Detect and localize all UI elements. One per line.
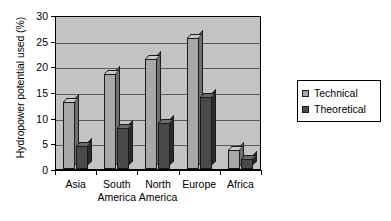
- y-axis-tick-labels: 051015202530: [22, 12, 48, 170]
- x-axis-tick-labels: AsiaSouthAmericaNorthAmericaEuropeAfrica: [55, 178, 262, 214]
- y-axis-tick-label: 25: [22, 37, 48, 47]
- plot-area: [55, 16, 261, 170]
- bar-group: [56, 17, 97, 169]
- bar-face: [117, 128, 129, 169]
- bar: [241, 159, 253, 169]
- chart-legend: TechnicalTheoretical: [297, 80, 381, 122]
- bar-face: [200, 97, 212, 169]
- bar: [200, 97, 212, 169]
- bar-group: [221, 17, 262, 169]
- y-axis-tick-label: 20: [22, 62, 48, 72]
- x-axis-tick-mark: [96, 170, 97, 175]
- legend-item: Theoretical: [302, 101, 377, 117]
- legend-item: Technical: [302, 85, 377, 101]
- bar: [117, 128, 129, 169]
- y-axis-tick-label: 30: [22, 11, 48, 21]
- x-axis-tick-mark: [55, 170, 56, 175]
- y-axis-tick-label: 15: [22, 88, 48, 98]
- x-axis-tick-label-line: Africa: [212, 178, 269, 191]
- legend-swatch-icon: [302, 90, 309, 97]
- x-axis-line: [55, 170, 262, 171]
- bar: [76, 146, 88, 169]
- x-axis-tick-mark: [220, 170, 221, 175]
- x-axis-tick-label: Africa: [212, 178, 269, 191]
- bar-group: [180, 17, 221, 169]
- y-axis-tick-label: 10: [22, 114, 48, 124]
- bar-face: [104, 74, 116, 169]
- bar: [63, 102, 75, 169]
- bar: [158, 123, 170, 169]
- bar: [228, 150, 240, 170]
- bar: [145, 59, 157, 169]
- y-axis-tick-mark: [51, 93, 55, 94]
- bar-group: [97, 17, 138, 169]
- bar-face: [158, 123, 170, 169]
- bar-face: [76, 146, 88, 169]
- y-axis-tick-label: 5: [22, 139, 48, 149]
- bar-face: [63, 102, 75, 169]
- legend-label: Technical: [314, 88, 358, 99]
- bar-face: [145, 59, 157, 169]
- y-axis-tick-mark: [51, 42, 55, 43]
- bar: [104, 74, 116, 169]
- bar-face: [228, 150, 240, 170]
- x-axis-tick-mark: [179, 170, 180, 175]
- y-axis-tick-label: 0: [22, 165, 48, 175]
- bar-group: [138, 17, 179, 169]
- x-axis-tick-label-line: America: [129, 191, 186, 204]
- legend-swatch-icon: [302, 106, 309, 113]
- bar-side: [170, 115, 174, 165]
- hydropower-bar-chart: Hydropower potential used (%) 0510152025…: [0, 0, 391, 221]
- x-axis-tick-mark: [261, 170, 262, 175]
- bar-face: [187, 38, 199, 169]
- y-axis-tick-mark: [51, 67, 55, 68]
- bar-side: [212, 89, 216, 165]
- bars-layer: [56, 17, 260, 169]
- bar: [187, 38, 199, 169]
- legend-label: Theoretical: [314, 104, 366, 115]
- y-axis-tick-mark: [51, 144, 55, 145]
- y-axis-tick-mark: [51, 16, 55, 17]
- bar-face: [241, 159, 253, 169]
- x-axis-tick-mark: [137, 170, 138, 175]
- y-axis-tick-mark: [51, 119, 55, 120]
